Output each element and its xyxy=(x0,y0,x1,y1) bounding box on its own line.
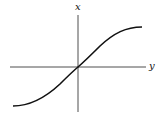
horizontal-axis-label: y xyxy=(149,61,155,71)
sigmoid-curve xyxy=(13,27,142,106)
diagram: x y xyxy=(0,0,161,116)
plot-canvas xyxy=(0,0,161,116)
vertical-axis-label: x xyxy=(75,2,81,12)
